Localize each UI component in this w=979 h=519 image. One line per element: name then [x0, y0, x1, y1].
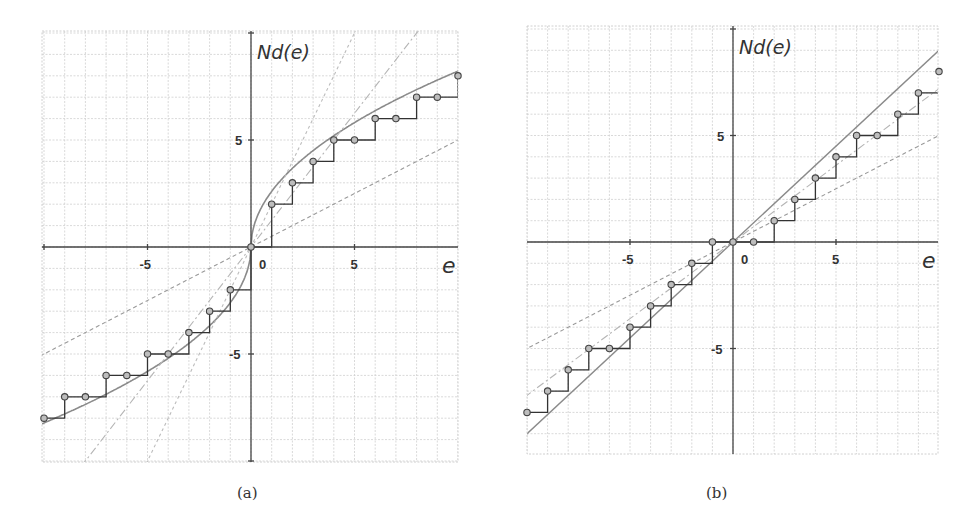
data-point [41, 415, 47, 421]
data-point [709, 239, 715, 245]
data-point [393, 115, 399, 121]
y-tick-label-neg5: -5 [711, 342, 723, 357]
chart-a-plot: -5055-5Nd(e)e [0, 0, 470, 470]
data-point [689, 260, 695, 266]
data-point [144, 351, 150, 357]
data-point [289, 180, 295, 186]
x-tick-label-5: 5 [832, 252, 839, 267]
data-point [82, 394, 88, 400]
data-point [544, 388, 550, 394]
data-point [668, 281, 674, 287]
data-point [565, 367, 571, 373]
data-point [124, 372, 130, 378]
data-point [351, 137, 357, 143]
chart-b: -5055-5Nd(e)e [490, 0, 960, 470]
data-point [206, 308, 212, 314]
y-axis-label: Nd(e) [739, 36, 792, 58]
data-point [895, 111, 901, 117]
chart-b-plot: -5055-5Nd(e)e [490, 0, 960, 470]
line-slope-0.9 [490, 12, 960, 470]
x-axis-label: e [922, 248, 936, 273]
line-slope-1.25 [3, 0, 470, 470]
data-point [730, 239, 736, 245]
data-point [269, 201, 275, 207]
chart-a: -5055-5Nd(e)e [0, 0, 470, 470]
data-point [936, 68, 942, 74]
data-point [331, 137, 337, 143]
data-point [586, 345, 592, 351]
y-axis-label: Nd(e) [257, 41, 310, 63]
data-point [186, 329, 192, 335]
data-point [627, 324, 633, 330]
data-point [61, 394, 67, 400]
y-tick-label-neg5: -5 [229, 347, 241, 362]
data-point [248, 244, 254, 250]
data-point [434, 94, 440, 100]
data-point [455, 73, 461, 79]
data-point [372, 115, 378, 121]
data-point [771, 218, 777, 224]
data-point [165, 351, 171, 357]
x-axis-label: e [442, 253, 456, 278]
data-point [833, 154, 839, 160]
data-point [227, 287, 233, 293]
y-tick-label-5: 5 [717, 129, 724, 144]
line-slope-2 [3, 0, 470, 470]
x-tick-label-5: 5 [351, 257, 358, 272]
data-point [413, 94, 419, 100]
data-point [853, 132, 859, 138]
caption-b: (b) [706, 484, 727, 502]
data-point [812, 175, 818, 181]
x-tick-label-neg5: -5 [622, 252, 634, 267]
data-point [606, 345, 612, 351]
data-point [647, 303, 653, 309]
data-point [792, 196, 798, 202]
x-tick-label-neg5: -5 [140, 257, 152, 272]
data-point [915, 90, 921, 96]
caption-a: (a) [237, 484, 258, 502]
data-point [750, 239, 756, 245]
x-tick-label-0: 0 [741, 252, 748, 267]
data-point [310, 158, 316, 164]
data-point [874, 132, 880, 138]
data-point [103, 372, 109, 378]
data-point [524, 409, 530, 415]
x-tick-label-0: 0 [259, 257, 266, 272]
y-tick-label-5: 5 [235, 133, 242, 148]
